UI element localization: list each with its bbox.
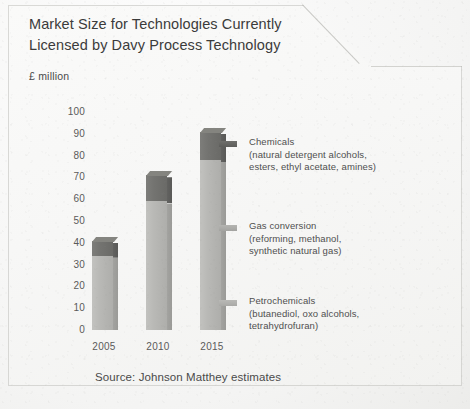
source-note: Source: Johnson Matthey estimates: [95, 371, 281, 383]
legend-label: Chemicals: [249, 136, 424, 149]
y-axis: 0102030405060708090100: [55, 0, 85, 409]
x-axis-label-2015: 2015: [192, 341, 232, 352]
bar-side-dark: [113, 243, 118, 258]
bar-2005: [92, 241, 113, 330]
y-axis-tick: 60: [55, 193, 85, 204]
y-axis-tick: 90: [55, 128, 85, 139]
chemicals-swatch: [219, 141, 237, 147]
legend-detail-line-1: (reforming, methanol,: [249, 233, 424, 246]
bar-segment-petrochemicals-gas: [146, 201, 167, 330]
bar-top-cap: [146, 171, 172, 176]
legend-detail-line-2: synthetic natural gas): [249, 245, 424, 258]
legend-text: Gas conversion(reforming, methanol,synth…: [249, 220, 424, 258]
bar-side-dark: [221, 134, 226, 162]
legend-text: Petrochemicals(butanediol, oxo alcohols,…: [249, 295, 424, 333]
y-axis-tick: 10: [55, 302, 85, 313]
y-axis-tick: 40: [55, 237, 85, 248]
legend-text: Chemicals(natural detergent alcohols,est…: [249, 136, 424, 174]
legend-detail-line-1: (natural detergent alcohols,: [249, 149, 424, 162]
bar-segment-petrochemicals-gas: [200, 160, 221, 330]
legend-detail-line-2: tetrahydrofuran): [249, 320, 424, 333]
y-axis-tick: 100: [55, 106, 85, 117]
y-axis-tick: 70: [55, 171, 85, 182]
y-axis-tick: 0: [55, 324, 85, 335]
bar-2015: [200, 132, 221, 330]
petrochemicals-swatch: [219, 300, 237, 306]
bar-2010: [146, 175, 167, 330]
x-axis-label-2010: 2010: [138, 341, 178, 352]
legend-label: Gas conversion: [249, 220, 424, 233]
chart-page: Market Size for Technologies Currently L…: [0, 0, 470, 409]
x-axis-label-2005: 2005: [84, 341, 124, 352]
chart-plot-area: 0102030405060708090100200520102015Chemic…: [0, 0, 470, 409]
legend-detail-line-1: (butanediol, oxo alcohols,: [249, 308, 424, 321]
y-axis-tick: 50: [55, 215, 85, 226]
y-axis-tick: 80: [55, 150, 85, 161]
gas-conversion-swatch: [219, 225, 237, 231]
bar-top-cap: [92, 237, 118, 242]
bar-segment-petrochemicals-gas: [92, 256, 113, 330]
bar-side-light: [167, 203, 172, 330]
bar-segment-chemicals: [146, 175, 167, 201]
legend-label: Petrochemicals: [249, 295, 424, 308]
bar-segment-chemicals: [200, 132, 221, 160]
y-axis-tick: 20: [55, 280, 85, 291]
bar-top-cap: [200, 128, 226, 133]
bar-segment-chemicals: [92, 241, 113, 256]
y-axis-tick: 30: [55, 259, 85, 270]
legend-detail-line-2: esters, ethyl acetate, amines): [249, 161, 424, 174]
bar-side-light: [113, 258, 118, 330]
bar-side-dark: [167, 177, 172, 203]
